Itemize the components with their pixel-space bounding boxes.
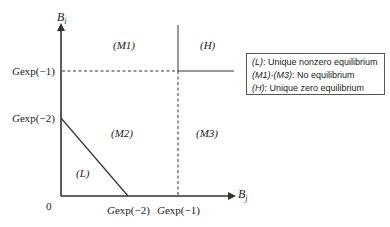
legend-item-l: (L): Unique nonzero equilibrium	[252, 56, 380, 69]
x-tick-gexp-1: Gexp(−1)	[157, 204, 200, 217]
region-label-m1: (M1)	[113, 39, 135, 52]
region-label-m2: (M2)	[111, 127, 133, 140]
region-label-m3: (M3)	[196, 127, 218, 140]
y-tick-gexp-2: Gexp(−2)	[12, 112, 55, 125]
region-label-l: (L)	[76, 167, 90, 180]
equilibrium-region-diagram: Bi Bj 0 Gexp(−1) Gexp(−2) Gexp(−2) Gexp(…	[0, 0, 390, 227]
x-axis-label: Bj	[238, 187, 248, 203]
legend-item-m: (M1)-(M3): No equilibrium	[252, 69, 380, 82]
y-axis-label: Bi	[57, 10, 67, 26]
legend-box: (L): Unique nonzero equilibrium (M1)-(M3…	[246, 53, 385, 95]
legend-item-h: (H): Unique zero equilibrium	[252, 82, 380, 95]
y-tick-gexp-1: Gexp(−1)	[12, 65, 55, 78]
x-tick-gexp-2: Gexp(−2)	[107, 204, 150, 217]
region-label-h: (H)	[200, 39, 216, 52]
origin-label: 0	[46, 200, 52, 212]
